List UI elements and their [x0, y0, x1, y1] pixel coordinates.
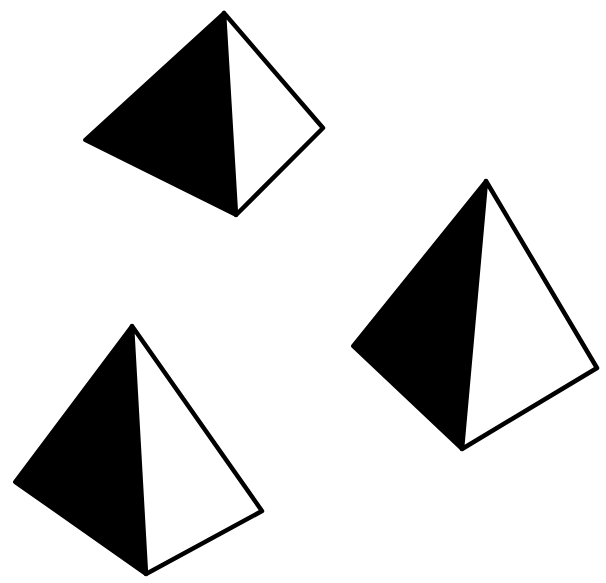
- top-pyramid: [85, 13, 323, 215]
- pyramids-drawing: [0, 0, 606, 583]
- light-face: [462, 181, 597, 449]
- right-pyramid: [353, 181, 597, 449]
- dark-face: [15, 326, 146, 574]
- bottom-left-pyramid: [15, 326, 262, 574]
- dark-face: [85, 13, 236, 215]
- light-face: [132, 326, 262, 574]
- light-face: [224, 13, 323, 215]
